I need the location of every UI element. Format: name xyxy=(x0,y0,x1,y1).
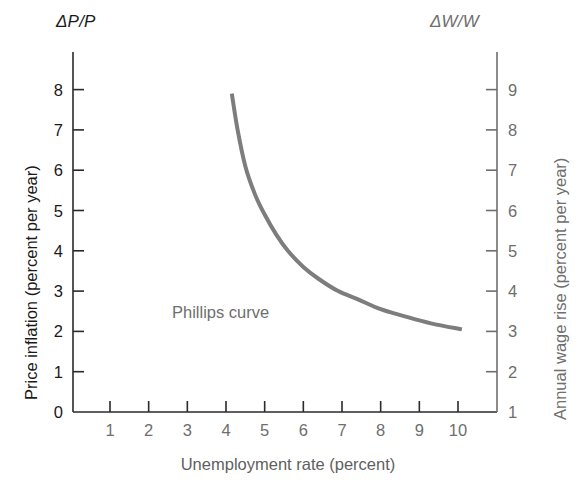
x-tick-label: 1 xyxy=(105,421,114,439)
y-tick-label: 5 xyxy=(54,202,63,220)
x-tick-label: 10 xyxy=(449,421,467,439)
secondary-y-tick-label: 1 xyxy=(508,403,517,421)
y-tick-label: 3 xyxy=(54,282,63,300)
y-tick-label: 6 xyxy=(54,161,63,179)
secondary-y-tick-label: 2 xyxy=(508,363,517,381)
x-tick-label: 8 xyxy=(376,421,385,439)
x-axis-label: Unemployment rate (percent) xyxy=(0,455,576,474)
secondary-y-axis-label: Annual wage rise (percent per year) xyxy=(551,158,570,420)
secondary-y-tick-label: 5 xyxy=(508,242,517,260)
secondary-y-axis-ticks: 123456789 xyxy=(486,81,517,421)
secondary-y-tick-label: 6 xyxy=(508,202,517,220)
y-tick-label: 0 xyxy=(54,403,63,421)
y-tick-label: 8 xyxy=(54,81,63,99)
y-axis-label: Price inflation (percent per year) xyxy=(22,165,41,400)
phillips-curve-annotation: Phillips curve xyxy=(172,303,269,322)
x-tick-label: 4 xyxy=(221,421,230,439)
data-series-group xyxy=(232,94,462,330)
phillips-curve-chart: ΔP/P ΔW/W Price inflation (percent per y… xyxy=(0,0,576,487)
right-axis-symbol: ΔW/W xyxy=(430,12,479,32)
secondary-y-tick-label: 4 xyxy=(508,282,517,300)
x-tick-label: 3 xyxy=(183,421,192,439)
x-tick-label: 6 xyxy=(299,421,308,439)
x-tick-label: 7 xyxy=(337,421,346,439)
x-tick-label: 9 xyxy=(415,421,424,439)
y-axis-ticks: 012345678 xyxy=(54,81,84,421)
x-tick-label: 2 xyxy=(144,421,153,439)
y-tick-label: 1 xyxy=(54,363,63,381)
plot-area: 012345678 123456789 12345678910 xyxy=(0,0,576,487)
secondary-y-tick-label: 8 xyxy=(508,121,517,139)
axis-lines xyxy=(73,52,497,412)
y-tick-label: 7 xyxy=(54,121,63,139)
secondary-y-tick-label: 9 xyxy=(508,81,517,99)
x-axis-ticks: 12345678910 xyxy=(105,401,467,439)
y-tick-label: 4 xyxy=(54,242,63,260)
y-tick-label: 2 xyxy=(54,322,63,340)
left-axis-symbol: ΔP/P xyxy=(56,12,96,32)
x-tick-label: 5 xyxy=(260,421,269,439)
secondary-y-tick-label: 7 xyxy=(508,161,517,179)
series-line-phillips-curve xyxy=(232,94,462,330)
secondary-y-tick-label: 3 xyxy=(508,322,517,340)
